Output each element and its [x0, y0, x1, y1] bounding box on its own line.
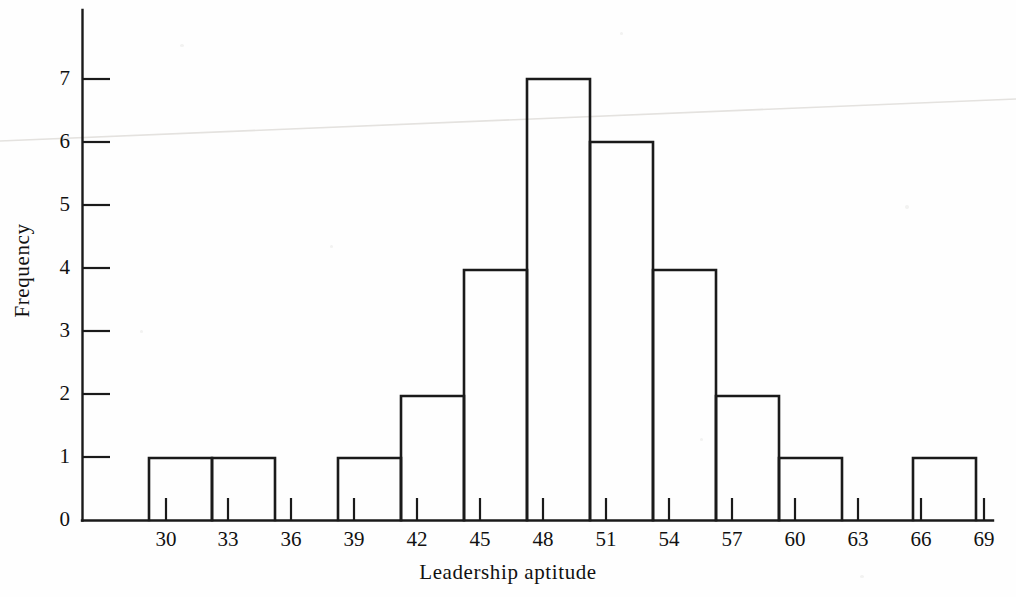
- y-tick-label-2: 2: [40, 381, 70, 406]
- y-tick-label-5: 5: [40, 192, 70, 217]
- x-tick-label-48: 48: [520, 527, 566, 552]
- x-tick-label-30: 30: [143, 527, 189, 552]
- x-tick-label-69: 69: [961, 527, 1007, 552]
- bar-bin-49.5-52.5: [590, 142, 653, 520]
- bar-bin-40.5-43.5: [401, 396, 464, 520]
- x-axis-ticks: [166, 498, 984, 521]
- x-tick-label-66: 66: [898, 527, 944, 552]
- y-tick-label-7: 7: [40, 66, 70, 91]
- scan-artifact-line: [0, 99, 1016, 141]
- x-tick-label-45: 45: [457, 527, 503, 552]
- paper-speck: [330, 245, 333, 248]
- y-tick-label-6: 6: [40, 129, 70, 154]
- paper-speck: [620, 32, 623, 35]
- y-tick-label-1: 1: [40, 444, 70, 469]
- x-tick-label-36: 36: [268, 527, 314, 552]
- x-tick-label-63: 63: [835, 527, 881, 552]
- histogram-figure: 7 6 5 4 3 2 1 0 30 33 36 39 42 45 48 51 …: [0, 0, 1016, 597]
- x-tick-label-33: 33: [205, 527, 251, 552]
- y-tick-label-3: 3: [40, 318, 70, 343]
- bar-bin-31.5-34.5: [212, 458, 275, 520]
- y-axis-title: Frequency: [10, 201, 35, 341]
- bar-bin-58.5-61.5: [779, 458, 842, 520]
- x-tick-label-57: 57: [709, 527, 755, 552]
- x-tick-label-51: 51: [583, 527, 629, 552]
- x-tick-label-42: 42: [394, 527, 440, 552]
- y-axis-ticks: [83, 79, 111, 457]
- x-tick-label-39: 39: [331, 527, 377, 552]
- bar-bin-28.5-31.5: [149, 458, 212, 520]
- y-tick-label-0: 0: [40, 507, 70, 532]
- x-axis-title: Leadership aptitude: [0, 560, 1016, 585]
- x-tick-label-54: 54: [646, 527, 692, 552]
- y-tick-label-4: 4: [40, 255, 70, 280]
- bar-bin-43.5-46.5: [464, 270, 527, 520]
- bar-bin-64.5-67.5: [913, 458, 976, 520]
- bar-bin-52.5-55.5: [653, 270, 716, 520]
- histogram-bars: [149, 79, 976, 520]
- x-tick-label-60: 60: [772, 527, 818, 552]
- bar-bin-46.5-49.5: [527, 79, 590, 520]
- bar-bin-55.5-58.5: [716, 396, 779, 520]
- paper-speck: [700, 438, 703, 441]
- histogram-plot: [0, 0, 1016, 597]
- paper-speck: [905, 205, 909, 209]
- paper-speck: [140, 330, 143, 333]
- paper-speck: [180, 44, 184, 47]
- bar-bin-37.5-40.5: [338, 458, 401, 520]
